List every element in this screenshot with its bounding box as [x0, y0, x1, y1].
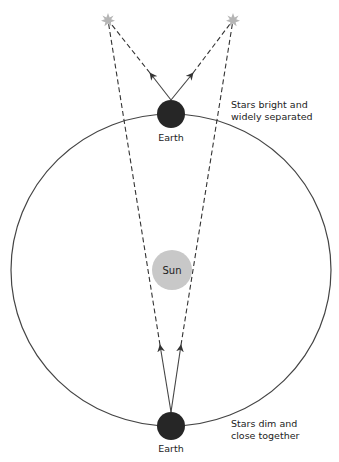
bottom-note-line2: close together: [231, 430, 299, 441]
earth-top: [157, 100, 185, 128]
sightline-bottom-right-dashed: [181, 20, 233, 345]
arrow-top-right: [171, 73, 193, 100]
earth-bottom-label: Earth: [158, 443, 183, 454]
star-icon: [226, 13, 240, 26]
sightline-top-right-dashed: [193, 20, 233, 73]
top-note-line2: widely separated: [231, 111, 313, 122]
sightline-top-left-dashed: [108, 20, 150, 73]
top-note-line1: Stars bright and: [231, 99, 308, 110]
arrow-bottom-left: [160, 345, 171, 412]
earth-top-label: Earth: [158, 132, 183, 143]
parallax-diagram: Sun Earth Stars bright and widely separa…: [0, 0, 339, 462]
sun-label: Sun: [162, 265, 181, 276]
star-icon: [101, 13, 115, 26]
sightline-bottom-left-dashed: [108, 20, 160, 345]
bottom-note-line1: Stars dim and: [231, 418, 297, 429]
arrow-bottom-right: [171, 345, 181, 412]
arrow-top-left: [150, 73, 171, 100]
earth-bottom: [157, 412, 185, 440]
